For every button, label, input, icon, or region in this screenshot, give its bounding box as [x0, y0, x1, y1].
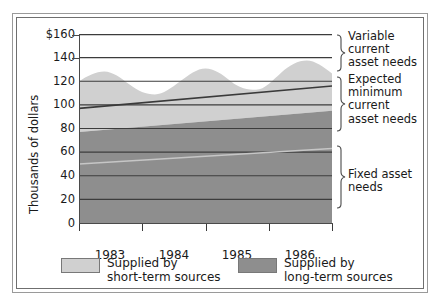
brace-label-variable: Variable current asset needs — [348, 30, 417, 70]
gridlines — [79, 35, 332, 200]
brace-expected-line4: asset needs — [348, 113, 417, 126]
area-long-term — [79, 111, 332, 223]
x-tick-mark-3 — [269, 224, 270, 231]
y-axis-line — [79, 34, 80, 224]
legend-long-term-line2: long-term sources — [284, 270, 393, 284]
legend-text-long-term: Supplied by long-term sources — [284, 256, 393, 284]
legend-short-term-line2: short-term sources — [107, 270, 221, 284]
brace-expected-minimum — [337, 77, 345, 131]
brace-expected-line3: current — [348, 99, 417, 112]
x-tick-mark-1 — [142, 224, 143, 231]
line-fixed-assets — [79, 149, 332, 164]
brace-fixed-assets — [337, 146, 345, 208]
plot-clip — [79, 34, 332, 223]
brace-label-expected-minimum: Expected minimum current asset needs — [348, 73, 417, 126]
brace-label-fixed-assets: Fixed asset needs — [348, 168, 412, 194]
legend-short-term-line1: Supplied by — [107, 256, 221, 270]
legend-long-term-line1: Supplied by — [284, 256, 393, 270]
y-tick-label-160: $160 — [3, 29, 75, 41]
x-tick-mark-2 — [206, 224, 207, 231]
y-tick-mark-140 — [72, 58, 79, 59]
line-total-permanent — [79, 86, 332, 108]
brace-variable — [337, 35, 345, 71]
brace-fixed-line2: needs — [348, 181, 412, 194]
plot-area — [79, 34, 332, 223]
y-tick-label-0: 0 — [3, 218, 75, 230]
y-tick-label-140: 140 — [3, 52, 75, 64]
area-short-term — [79, 61, 332, 132]
figure-border-inner: $160 140 120 100 80 60 40 20 0 Thousands… — [16, 17, 424, 289]
y-tick-mark-160 — [72, 35, 79, 36]
x-tick-mark-0 — [79, 224, 80, 231]
legend-swatch-long-term — [238, 258, 277, 273]
chart-figure: $160 140 120 100 80 60 40 20 0 Thousands… — [0, 0, 440, 307]
y-axis-title: Thousands of dollars — [27, 64, 41, 214]
plot-svg — [79, 34, 332, 223]
x-tick-mark-4 — [332, 224, 333, 231]
legend-text-short-term: Supplied by short-term sources — [107, 256, 221, 284]
legend-swatch-short-term — [61, 258, 100, 273]
brace-variable-line3: asset needs — [348, 56, 417, 69]
